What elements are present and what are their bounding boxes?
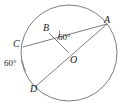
- point-label-a: A: [104, 15, 110, 25]
- point-label-c: C: [13, 39, 20, 49]
- geometry-figure: A B C D O 60° 60°: [0, 0, 127, 106]
- point-label-b: B: [43, 23, 49, 33]
- point-label-d: D: [30, 84, 37, 94]
- point-label-o: O: [70, 55, 77, 65]
- angle-label-exterior: 60°: [4, 59, 17, 68]
- angle-label-at-b: 60°: [58, 33, 71, 42]
